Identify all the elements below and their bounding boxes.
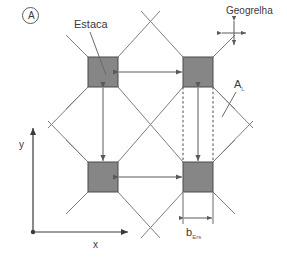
dimension-subscript: Ers (192, 234, 201, 240)
area-label: AL (234, 79, 245, 92)
y-axis-label: y (19, 140, 24, 150)
figure-tag-label: A (28, 11, 35, 21)
geogrid-lattice (48, 11, 253, 238)
origin-dot (31, 230, 35, 234)
pile-bottom-right (183, 162, 213, 192)
area-leader (222, 92, 236, 117)
diagram-canvas (0, 0, 287, 264)
pile-top-right (183, 57, 213, 87)
pile-top-left (88, 57, 118, 87)
dimension-arrows (103, 72, 213, 224)
area-subscript: L (241, 86, 244, 92)
estaca-label: Estaca (74, 19, 108, 30)
dimension-label: bErs (186, 227, 201, 240)
pile-geogrid-plan-diagram: A Estaca Geogrelha AL bErs x y (0, 0, 287, 264)
geogrelha-label: Geogrelha (226, 6, 273, 16)
pile-bottom-left (88, 162, 118, 192)
x-axis-label: x (93, 240, 98, 250)
geogrid-orientation-cross (222, 21, 246, 45)
